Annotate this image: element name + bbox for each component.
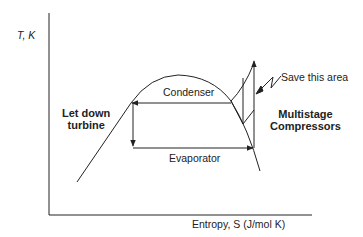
let-down-line1: Let down — [62, 107, 110, 119]
multistage-compressors-label: Multistage Compressors — [270, 108, 341, 132]
save-area-label: Save this area — [281, 71, 348, 83]
x-axis-label: Entropy, S (J/mol K) — [192, 218, 285, 230]
y-axis-label: T, K — [17, 29, 35, 41]
compressor-line2: Compressors — [270, 120, 341, 132]
let-down-turbine-label: Let down turbine — [62, 107, 110, 131]
compressor-line1: Multistage — [270, 108, 341, 120]
save-area-arrowhead — [256, 86, 263, 94]
let-down-line2: turbine — [62, 119, 110, 131]
condenser-label: Condenser — [163, 86, 214, 98]
evaporator-label: Evaporator — [169, 152, 220, 164]
